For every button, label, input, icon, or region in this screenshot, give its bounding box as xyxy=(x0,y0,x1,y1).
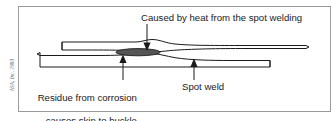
heat-label: Caused by heat from the spot welding xyxy=(141,12,302,23)
residue-label: Residue from corrosion causes skin to bu… xyxy=(27,81,137,121)
upper-skin-outline xyxy=(62,40,309,53)
residue-label-line1: Residue from corrosion xyxy=(38,92,137,103)
figure-container: ASA, Inc. 1993 Caused by heat from the s… xyxy=(0,0,336,121)
spot-weld-label: Spot weld xyxy=(182,81,224,92)
residue-label-line2: causes skin to buckle xyxy=(27,115,137,121)
corrosion-residue-lens xyxy=(116,49,160,56)
